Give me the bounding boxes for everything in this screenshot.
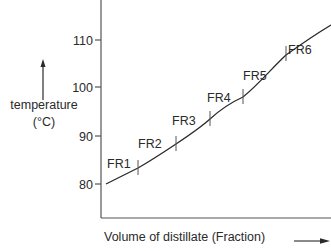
- y-tick-label-110: 110: [73, 34, 93, 48]
- x-axis-label: Volume of distillate (Fraction): [104, 230, 265, 244]
- fraction-label-fr2: FR2: [138, 137, 162, 151]
- fraction-label-fr3: FR3: [172, 114, 196, 128]
- fraction-label-fr5: FR5: [243, 69, 267, 83]
- fraction-boundary-ticks: [138, 46, 286, 175]
- y-tick-label-80: 80: [79, 178, 93, 192]
- y-tick-label-90: 90: [79, 130, 93, 144]
- y-tick-label-100: 100: [72, 81, 93, 95]
- fraction-label-fr4: FR4: [207, 91, 231, 105]
- fraction-label-fr6: FR6: [288, 43, 312, 57]
- y-axis-label-text: temperature: [0, 97, 88, 114]
- right-arrow-icon: [294, 238, 330, 243]
- y-ticks: [95, 40, 101, 184]
- fraction-label-fr1: FR1: [107, 157, 131, 171]
- y-axis-label-unit: (°C): [0, 114, 88, 131]
- up-arrow-icon: [41, 59, 46, 100]
- y-axis-label: temperature (°C): [0, 97, 88, 131]
